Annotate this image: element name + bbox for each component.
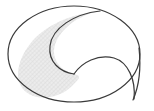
hatched-region-crosshatch — [18, 12, 96, 98]
lower-inner-arc — [74, 57, 134, 99]
hatched-region — [18, 12, 96, 98]
geometric-figure-svg — [0, 0, 154, 111]
figure-canvas — [0, 0, 154, 111]
